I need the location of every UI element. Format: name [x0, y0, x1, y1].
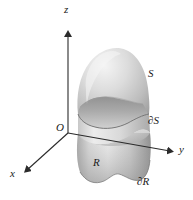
figure-container: z y x O S ∂S R ∂R [0, 0, 193, 200]
x-axis-line [27, 133, 68, 170]
origin-label: O [56, 122, 64, 133]
z-axis-label: z [64, 4, 68, 15]
region-boundary-label: ∂R [137, 176, 149, 187]
surface-boundary-label: ∂S [148, 115, 159, 126]
diagram-canvas [0, 0, 193, 200]
surface-s-group [77, 48, 149, 128]
surface-s-label: S [148, 68, 154, 79]
y-axis-label: y [179, 144, 184, 155]
x-axis-label: x [10, 168, 15, 179]
region-r-label: R [93, 157, 100, 168]
